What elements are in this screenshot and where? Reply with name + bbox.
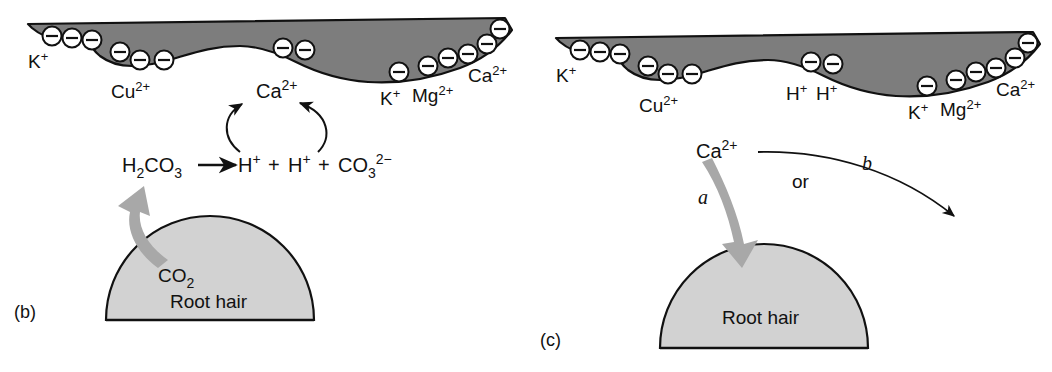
- ion-circle: [967, 63, 986, 82]
- ion-circle: [459, 45, 478, 64]
- ion-cluster-k-right-b: [390, 63, 409, 82]
- ion-circle: [155, 51, 174, 70]
- ion-circle: [63, 29, 82, 48]
- ion-circle: [111, 43, 130, 62]
- ion-circle: [390, 63, 409, 82]
- ion-circle: [987, 59, 1006, 78]
- cation-exchange-figure: K+ Cu2+ K+ Mg2+ Ca2+ Ca2+ H2CO3 H+ + H+ …: [0, 0, 1052, 372]
- ion-circle: [1019, 34, 1038, 53]
- ion-cluster-k-right-c: [918, 77, 937, 96]
- ion-circle: [591, 43, 610, 62]
- ion-circle: [83, 31, 102, 50]
- ion-circle: [43, 27, 62, 46]
- pathway-b-label-c: b: [862, 152, 872, 174]
- ion-circle: [491, 20, 510, 39]
- ion-circle: [131, 51, 150, 70]
- ion-circle: [683, 65, 702, 84]
- equation-plus-1: +: [268, 154, 280, 176]
- ion-circle: [659, 65, 678, 84]
- ion-circle: [947, 71, 966, 90]
- ion-circle: [296, 41, 315, 60]
- panel-label-b: (b): [14, 302, 36, 322]
- ion-circle: [611, 45, 630, 64]
- ion-circle: [918, 77, 937, 96]
- ion-circle: [802, 53, 821, 72]
- ion-circle: [639, 57, 658, 76]
- or-label-c: or: [792, 171, 810, 192]
- ion-cluster-k-left-c: [571, 41, 630, 64]
- ion-circle: [274, 39, 293, 58]
- figure-canvas: K+ Cu2+ K+ Mg2+ Ca2+ Ca2+ H2CO3 H+ + H+ …: [0, 0, 1052, 372]
- ion-circle: [419, 57, 438, 76]
- root-hair-label-b: Root hair: [170, 291, 248, 312]
- ion-circle: [824, 55, 843, 74]
- pathway-a-label-c: a: [698, 186, 708, 208]
- ion-circle: [571, 41, 590, 60]
- panel-label-c: (c): [540, 330, 561, 350]
- ion-cluster-k-left-b: [43, 27, 102, 50]
- equation-plus-2: +: [318, 154, 330, 176]
- ion-circle: [439, 49, 458, 68]
- root-hair-label-c: Root hair: [722, 307, 800, 328]
